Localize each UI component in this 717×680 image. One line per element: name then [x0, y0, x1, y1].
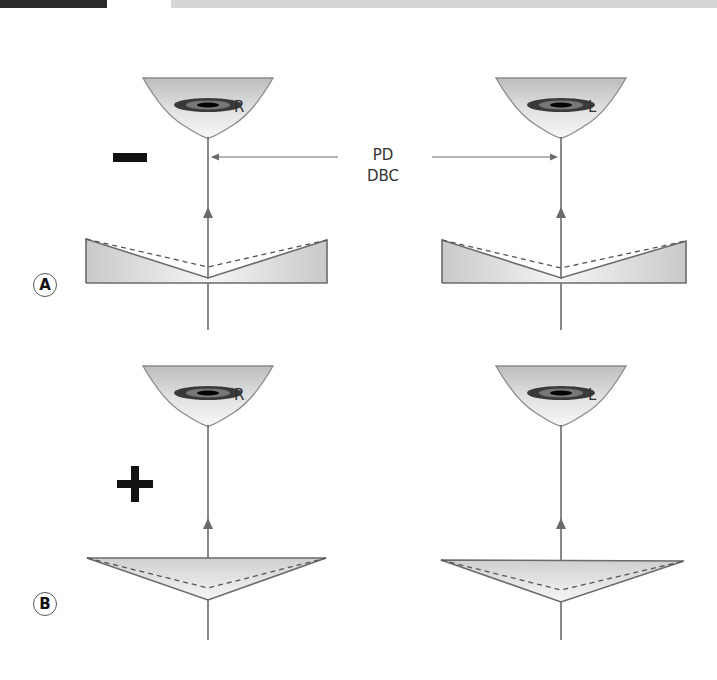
plus-sign-icon — [117, 466, 153, 502]
pd-label: PD — [353, 145, 413, 166]
panel-b-badge: B — [33, 592, 57, 616]
diagram-canvas — [0, 0, 717, 680]
right-eye-icon — [143, 78, 273, 138]
arrow-right-icon — [550, 154, 558, 161]
panel-a-badge: A — [33, 273, 57, 297]
left-eye-label-a: L — [588, 100, 596, 115]
right-eye-label-b: R — [234, 388, 244, 403]
dbc-label: DBC — [353, 166, 413, 187]
right-minus-lens — [86, 239, 327, 283]
panel-b — [87, 366, 684, 640]
arrow-left-icon — [211, 154, 219, 161]
left-minus-lens — [442, 240, 686, 283]
panel-a — [86, 78, 686, 330]
arrow-up-icon — [203, 207, 213, 218]
left-plus-lens — [441, 560, 684, 602]
arrow-up-icon — [556, 518, 566, 529]
left-eye-label-b: L — [588, 388, 596, 403]
right-eye-icon — [143, 366, 273, 426]
right-eye-label-a: R — [234, 100, 244, 115]
arrow-up-icon — [203, 518, 213, 529]
left-eye-icon — [496, 78, 626, 138]
minus-sign-icon — [113, 153, 147, 162]
right-plus-lens — [87, 558, 326, 600]
left-eye-icon — [496, 366, 626, 426]
arrow-up-icon — [556, 207, 566, 218]
